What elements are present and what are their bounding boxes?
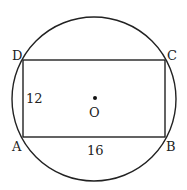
label-vertex-a: A [11, 139, 22, 154]
label-vertex-d: D [12, 48, 22, 63]
label-vertex-b: B [166, 139, 176, 154]
inscribed-rectangle-diagram: O D C A B 12 16 [0, 0, 187, 190]
label-side-ad: 12 [26, 91, 43, 106]
label-vertex-c: C [167, 48, 177, 63]
label-center-o: O [89, 105, 100, 120]
center-point [93, 96, 97, 100]
label-side-ab: 16 [87, 143, 104, 158]
